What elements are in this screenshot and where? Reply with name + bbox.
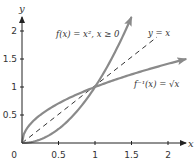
x-tick-label: 1.5 xyxy=(124,150,138,160)
identity-label: y = x xyxy=(147,28,170,38)
origin-label: 0 xyxy=(11,150,17,160)
parabola-label: f(x) = x², x ≥ 0 xyxy=(55,29,120,39)
y-tick-label: 0.5 xyxy=(3,110,17,120)
y-tick-label: 1.5 xyxy=(3,54,17,64)
y-axis-label: y xyxy=(18,3,25,14)
x-tick-label: 1 xyxy=(92,150,98,160)
y-tick-label: 2 xyxy=(11,26,17,36)
x-axis-label: x xyxy=(188,138,194,149)
function-inverse-chart: 0 0.5 1 1.5 2 0.5 1 1.5 2 x y f(x) = x²,… xyxy=(0,0,194,166)
inverse-label: f⁻¹(x) = √x xyxy=(133,79,179,89)
y-tick-label: 1 xyxy=(11,82,17,92)
x-tick-label: 0.5 xyxy=(51,150,65,160)
x-tick-label: 2 xyxy=(165,150,171,160)
